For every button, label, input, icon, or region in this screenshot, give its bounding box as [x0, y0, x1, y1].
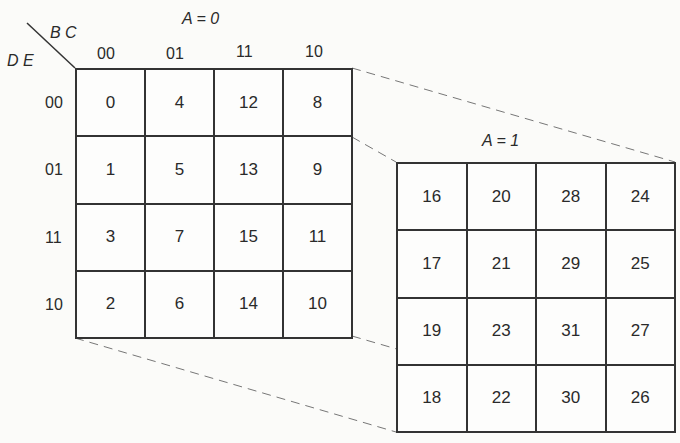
kmap-cell: 25: [606, 230, 676, 297]
kmap-cell: 6: [145, 271, 214, 338]
kmap-cell: 9: [283, 136, 352, 203]
col-header: 11: [236, 43, 253, 61]
kmap-cell: 23: [467, 298, 537, 365]
kmap-cell: 12: [214, 69, 283, 136]
kmap-cell: 13: [214, 136, 283, 203]
kmap-cell: 7: [145, 204, 214, 271]
col-header: 00: [97, 45, 115, 63]
kmap-cell: 8: [283, 69, 352, 136]
kmap-cell: 24: [606, 163, 676, 230]
kmap-cell: 15: [214, 204, 283, 271]
kmap-cell: 21: [467, 230, 537, 297]
row-variable-label: D E: [7, 52, 34, 70]
kmap-cell: 31: [536, 298, 606, 365]
kmap-cell: 22: [467, 365, 537, 432]
row-header: 11: [45, 229, 62, 247]
col-variable-label: B C: [50, 24, 77, 42]
dashed-projection-top-left: [352, 137, 396, 162]
kmap-a0-grid: 0 4 12 8 1 5 13 9 3 7 15 11 2 6 14 10: [75, 68, 353, 339]
kmap-cell: 26: [606, 365, 676, 432]
kmap-cell: 3: [76, 204, 145, 271]
row-header: 00: [45, 94, 63, 112]
row-header: 10: [45, 296, 63, 314]
kmap-cell: 18: [397, 365, 467, 432]
kmap-cell: 19: [397, 298, 467, 365]
kmap-a1-grid: 16 20 28 24 17 21 29 25 19 23 31 27 18 2…: [396, 162, 676, 433]
kmap-cell: 2: [76, 271, 145, 338]
col-header: 10: [305, 43, 323, 61]
col-header: 01: [166, 45, 184, 63]
kmap-cell: 5: [145, 136, 214, 203]
dashed-projection-bottom: [75, 338, 396, 432]
kmap-cell: 30: [536, 365, 606, 432]
kmap-cell: 17: [397, 230, 467, 297]
kmap-cell: 28: [536, 163, 606, 230]
kmap-cell: 11: [283, 204, 352, 271]
kmap-cell: 27: [606, 298, 676, 365]
kmap-cell: 10: [283, 271, 352, 338]
kmap-cell: 14: [214, 271, 283, 338]
kmap-cell: 16: [397, 163, 467, 230]
kmap-cell: 4: [145, 69, 214, 136]
kmap-cell: 20: [467, 163, 537, 230]
kmap-cell: 0: [76, 69, 145, 136]
kmap-cell: 1: [76, 136, 145, 203]
map-a0-label: A = 0: [182, 10, 219, 28]
row-header: 01: [45, 161, 63, 179]
kmap-cell: 29: [536, 230, 606, 297]
map-a1-label: A = 1: [482, 132, 519, 150]
